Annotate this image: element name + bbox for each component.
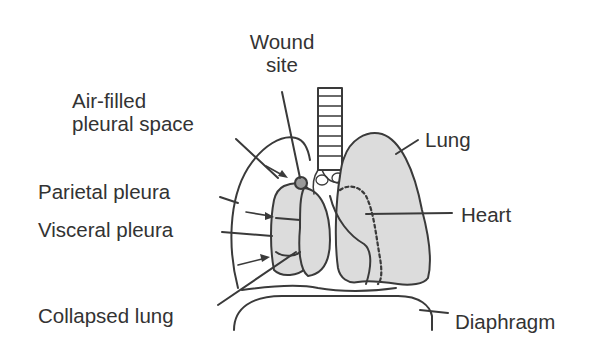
- diaphragm: [234, 296, 432, 330]
- diaphragm-leader-line: [420, 310, 448, 313]
- label-diaphragm: Diaphragm: [455, 310, 555, 333]
- pneumothorax-diagram: Wound site Air-filled pleural space Pari…: [0, 0, 602, 357]
- visceral-leader-line: [222, 232, 272, 236]
- trachea: [318, 88, 342, 170]
- wound-site-text-line2: site: [229, 53, 335, 76]
- heart-leader-line: [366, 213, 452, 214]
- wound-site: [295, 177, 307, 189]
- label-parietal-pleura: Parietal pleura: [38, 180, 170, 203]
- collapsed-lung-inner-lobe: [299, 188, 330, 276]
- label-visceral-pleura: Visceral pleura: [38, 218, 173, 241]
- wound-leader-line: [282, 92, 300, 178]
- normal-lung: [336, 133, 430, 285]
- label-air-filled-pleural-space: Air-filled pleural space: [72, 89, 194, 135]
- label-heart: Heart: [461, 203, 511, 226]
- air-filled-leader-line: [236, 139, 278, 178]
- air-filled-text-line2: pleural space: [72, 112, 194, 135]
- air-filled-text-line1: Air-filled: [72, 89, 194, 112]
- label-wound-site: Wound site: [229, 30, 335, 76]
- wound-site-text-line1: Wound: [229, 30, 335, 53]
- label-collapsed-lung: Collapsed lung: [38, 304, 174, 327]
- label-lung: Lung: [425, 128, 471, 151]
